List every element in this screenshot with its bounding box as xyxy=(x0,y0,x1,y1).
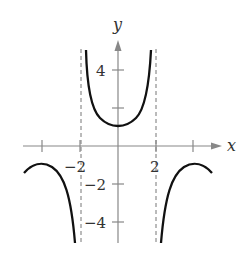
y-tick-label-4: 4 xyxy=(96,62,106,80)
x-tick-label-2: 2 xyxy=(150,158,160,176)
x-axis-label: x xyxy=(227,136,236,155)
chart: x y −2 2 4 −2 −4 xyxy=(0,0,252,253)
y-tick-label-neg4: −4 xyxy=(84,214,106,232)
x-axis-arrow-icon xyxy=(211,143,222,150)
y-axis-label: y xyxy=(112,15,123,34)
curve-right-branch xyxy=(161,164,212,243)
y-axis-arrow-icon xyxy=(115,40,122,51)
x-tick-label-neg2: −2 xyxy=(64,158,86,176)
y-tick-label-neg2: −2 xyxy=(84,176,106,194)
